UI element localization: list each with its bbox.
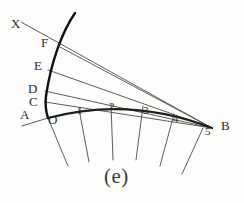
label-point-b: B (221, 120, 230, 132)
label-tick-5: 5 (205, 125, 211, 137)
base-arc (48, 109, 212, 128)
label-tick-1: 1 (77, 104, 83, 116)
label-point-o: O (48, 114, 57, 126)
label-tick-2: 2 (109, 100, 115, 112)
involute-curve (46, 13, 75, 118)
label-point-a: A (20, 109, 29, 121)
label-tick-4: 4 (173, 112, 179, 124)
radial-tick-3 (136, 106, 143, 160)
radial-tick-4 (160, 114, 174, 166)
label-point-e: E (34, 60, 42, 72)
figure-page: X F E D C A O B 1 2 3 4 5 (e) (0, 0, 244, 203)
label-point-f: F (41, 37, 48, 49)
label-point-c: C (29, 96, 38, 108)
label-tick-3: 3 (143, 104, 149, 116)
radial-tick-1 (79, 109, 89, 162)
label-point-x: X (11, 18, 20, 30)
figure-caption: (e) (104, 166, 129, 187)
radial-tick-5 (182, 128, 203, 174)
